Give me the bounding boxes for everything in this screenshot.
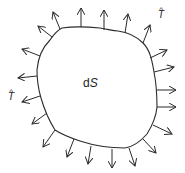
arrow-icon [22, 96, 40, 102]
arrow-icon [88, 146, 91, 164]
traction-letter: T [8, 91, 14, 102]
arrow-icon [38, 26, 52, 37]
arrow-icon [125, 14, 128, 33]
arrow-icon [154, 67, 174, 72]
arrow-icon [18, 76, 37, 78]
arrow-icon [150, 50, 167, 58]
traction-label-left: ^T [8, 88, 14, 102]
arrow-icon [143, 25, 150, 43]
surface-element-label: dS [83, 77, 98, 89]
arrow-icon [22, 49, 40, 56]
arrow-icon [67, 139, 74, 157]
arrow-icon [32, 113, 47, 124]
arrow-icon [43, 130, 55, 147]
arrow-icon [129, 148, 135, 166]
label-d: d [83, 76, 90, 90]
arrow-icon [153, 125, 172, 134]
traction-letter: T [158, 9, 164, 20]
label-s: S [90, 76, 98, 90]
arrow-icon [53, 12, 60, 29]
arrow-icon [143, 139, 156, 153]
traction-label-top-right: ^T [158, 6, 164, 20]
